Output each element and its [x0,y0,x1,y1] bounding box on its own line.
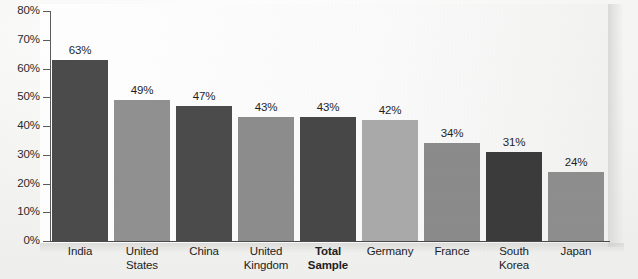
bar[interactable] [176,106,232,241]
category-label-line: China [176,245,232,259]
bar-group[interactable]: 43% [238,117,294,241]
bar[interactable] [486,152,542,241]
bar-value-label: 24% [548,156,604,168]
bar-group[interactable]: 24% [548,172,604,241]
y-axis-tick-label: 50% [0,91,40,102]
y-axis-tick-label: 60% [0,63,40,74]
bar-chart: 80%70%60%50%40%30%20%10%0% 63%49%47%43%4… [0,0,638,279]
y-axis-tick-mark [43,184,51,185]
x-axis-category-label: Germany [362,245,418,259]
y-axis-tick-mark [43,212,51,213]
category-label-line: Total [300,245,356,259]
bars-layer: 63%49%47%43%43%42%34%31%24% [0,0,638,279]
y-axis-tick-label: 0% [0,235,40,246]
y-axis-tick-mark [43,97,51,98]
x-axis-category-label: France [424,245,480,259]
category-label-line: India [52,245,108,259]
category-label-line: United [114,245,170,259]
bar[interactable] [424,143,480,241]
x-axis-category-label: China [176,245,232,259]
x-axis-category-label: India [52,245,108,259]
bar[interactable] [114,100,170,241]
category-label-line: Japan [548,245,604,259]
x-axis-category-label: UnitedKingdom [238,245,294,272]
bar-value-label: 34% [424,127,480,139]
bar-value-label: 43% [238,101,294,113]
category-label-line: South [486,245,542,259]
bar-group[interactable]: 42% [362,120,418,241]
bar-value-label: 63% [52,44,108,56]
bar[interactable] [238,117,294,241]
bar-value-label: 49% [114,84,170,96]
y-axis-tick-label: 20% [0,178,40,189]
bar-value-label: 31% [486,136,542,148]
x-axis-line [50,241,610,242]
y-axis-tick-mark [43,69,51,70]
bar-value-label: 42% [362,104,418,116]
category-label-line: Germany [362,245,418,259]
x-axis-category-label: TotalSample [300,245,356,272]
bar-group[interactable]: 47% [176,106,232,241]
x-axis-category-label: Japan [548,245,604,259]
y-axis-tick-label: 40% [0,120,40,131]
bar[interactable] [362,120,418,241]
y-axis-tick-mark [43,155,51,156]
y-axis-tick-label: 80% [0,5,40,16]
y-axis-tick-label: 70% [0,34,40,45]
x-axis-category-label: SouthKorea [486,245,542,272]
bar[interactable] [52,60,108,241]
bar-group[interactable]: 63% [52,60,108,241]
category-label-line: France [424,245,480,259]
y-axis-tick-mark [43,126,51,127]
bar-value-label: 47% [176,90,232,102]
category-label-line: Sample [300,259,356,273]
bar[interactable] [548,172,604,241]
y-axis-tick-label: 30% [0,149,40,160]
y-axis-tick-label: 10% [0,206,40,217]
bar-group[interactable]: 34% [424,143,480,241]
category-label-line: States [114,259,170,273]
category-label-line: Korea [486,259,542,273]
x-axis-category-label: UnitedStates [114,245,170,272]
bar-group[interactable]: 43% [300,117,356,241]
bar-group[interactable]: 31% [486,152,542,241]
category-label-line: Kingdom [238,259,294,273]
y-axis-tick-mark [43,40,51,41]
y-axis-tick-mark [43,11,51,12]
bar[interactable] [300,117,356,241]
bar-group[interactable]: 49% [114,100,170,241]
bar-value-label: 43% [300,101,356,113]
category-label-line: United [238,245,294,259]
